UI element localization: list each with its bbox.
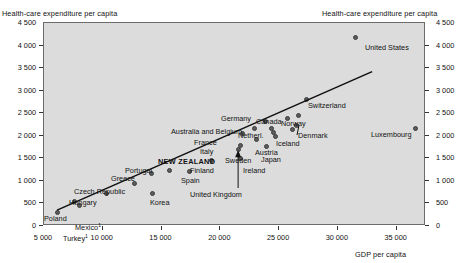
- x-axis-title: GDP per capita: [355, 250, 406, 259]
- y-tick-label-left: 500: [2, 198, 36, 207]
- y-tick-mark-right: [425, 135, 429, 136]
- x-tick-mark: [161, 226, 162, 230]
- y-tick-label-left: 1 500: [2, 153, 36, 162]
- data-label-canada: Canada: [256, 117, 282, 126]
- data-label-mexico: Mexico1: [75, 222, 101, 232]
- y-tick-label-left: 2 500: [2, 108, 36, 117]
- x-tick-label: 15 000: [137, 233, 185, 242]
- data-label-turkey: Turkey1: [63, 233, 88, 243]
- y-tick-label-left: 4 500: [2, 18, 36, 27]
- y-tick-label-right: 500: [436, 198, 474, 207]
- y-tick-label-left: 2 000: [2, 131, 36, 140]
- data-label-ireland: Ireland: [243, 166, 265, 175]
- data-label-germany: Germany: [221, 114, 251, 123]
- y-tick-label-left: 4 000: [2, 41, 36, 50]
- y-tick-label-right: 3 000: [436, 86, 474, 95]
- y-tick-mark-right: [425, 90, 429, 91]
- y-tick-label-left: 3 500: [2, 63, 36, 72]
- data-label-france: France: [194, 138, 217, 147]
- data-label-australia-and-belgium: Australia and Belgium: [171, 127, 242, 136]
- y-tick-mark-right: [425, 157, 429, 158]
- scatter-chart: Health-care expenditure per capita Healt…: [0, 0, 474, 263]
- data-point-korea[interactable]: [150, 191, 155, 196]
- data-point-japan[interactable]: [273, 134, 278, 139]
- y-tick-mark-right: [425, 180, 429, 181]
- y-tick-mark-left: [39, 135, 43, 136]
- data-label-portugal: Portugal: [125, 166, 152, 175]
- y-tick-label-right: 0: [436, 221, 474, 230]
- x-tick-label: 30 000: [313, 233, 361, 242]
- data-label-new-zealand: NEW ZEALAND: [158, 157, 215, 166]
- x-tick-mark: [102, 226, 103, 230]
- data-label-netherl-: Netherl.: [238, 131, 264, 140]
- data-label-united-states: United States: [365, 43, 409, 52]
- x-tick-label: 35 000: [372, 233, 420, 242]
- y-tick-mark-left: [39, 112, 43, 113]
- y-tick-label-right: 2 500: [436, 108, 474, 117]
- y-tick-mark-left: [39, 67, 43, 68]
- x-tick-label: 20 000: [195, 233, 243, 242]
- data-label-spain: Spain: [181, 176, 200, 185]
- y-tick-label-left: 0: [2, 221, 36, 230]
- y-tick-label-right: 2 000: [436, 131, 474, 140]
- y-tick-mark-left: [39, 45, 43, 46]
- data-point-united-kingdom[interactable]: [236, 147, 241, 152]
- x-tick-label: 25 000: [254, 233, 302, 242]
- footnote-marker: 1: [85, 233, 88, 239]
- data-label-italy: Italy: [200, 147, 213, 156]
- data-label-greece: Greece: [111, 174, 135, 183]
- y-axis-title-right: Health-care expenditure per capita: [322, 9, 437, 18]
- y-tick-mark-left: [39, 202, 43, 203]
- y-tick-mark-left: [39, 180, 43, 181]
- y-tick-label-right: 1 000: [436, 176, 474, 185]
- data-label-luxembourg: Luxembourg: [371, 130, 412, 139]
- y-tick-label-right: 1 500: [436, 153, 474, 162]
- x-tick-mark: [396, 226, 397, 230]
- y-tick-label-right: 4 500: [436, 18, 474, 27]
- x-tick-mark: [278, 226, 279, 230]
- y-tick-label-right: 4 000: [436, 41, 474, 50]
- y-tick-mark-left: [39, 157, 43, 158]
- y-tick-label-right: 3 500: [436, 63, 474, 72]
- y-tick-mark-left: [39, 225, 43, 226]
- data-label-hungary: Hungary: [69, 198, 97, 207]
- data-label-finland: Finland: [190, 166, 214, 175]
- y-tick-label-left: 1 000: [2, 176, 36, 185]
- data-label-sweden: Sweden: [225, 156, 251, 165]
- x-tick-mark: [219, 226, 220, 230]
- data-label-united-kingdom: United Kingdom: [190, 190, 242, 199]
- footnote-marker: 1: [98, 222, 101, 228]
- data-label-denmark: Denmark: [298, 131, 328, 140]
- data-label-iceland: Iceland: [276, 139, 300, 148]
- data-label-norway: Norway: [281, 119, 306, 128]
- data-label-switzerland: Switzerland: [308, 101, 346, 110]
- x-tick-mark: [337, 226, 338, 230]
- y-tick-mark-right: [425, 45, 429, 46]
- y-axis-title-left: Health-care expenditure per capita: [2, 9, 117, 18]
- data-label-poland: Poland: [44, 214, 67, 223]
- y-tick-mark-right: [425, 202, 429, 203]
- data-label-japan: Japan: [261, 155, 281, 164]
- y-tick-mark-left: [39, 90, 43, 91]
- x-tick-label: 5 000: [19, 233, 67, 242]
- y-tick-mark-right: [425, 112, 429, 113]
- y-tick-label-left: 3 000: [2, 86, 36, 95]
- data-label-czech-republic: Czech Republic: [74, 187, 125, 196]
- data-label-korea: Korea: [150, 198, 169, 207]
- y-tick-mark-right: [425, 225, 429, 226]
- y-tick-mark-right: [425, 67, 429, 68]
- data-point-norway[interactable]: [296, 113, 301, 118]
